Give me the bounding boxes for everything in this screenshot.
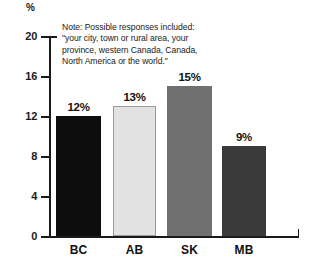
bars-layer: 12% 13% 15% 9%: [0, 0, 309, 274]
bar-sk[interactable]: [167, 86, 212, 236]
bar-value-bc: 12%: [67, 101, 89, 113]
x-category-label-mb: MB: [222, 243, 266, 257]
bar-group-mb: 9%: [222, 0, 266, 236]
bar-chart: % 20 16 12 8 4 0 Note: Possible response…: [0, 0, 309, 274]
bar-ab[interactable]: [113, 106, 156, 236]
bar-value-mb: 9%: [236, 131, 252, 143]
bar-bc[interactable]: [56, 116, 101, 236]
bar-group-ab: 13%: [113, 0, 156, 236]
bar-group-sk: 15%: [167, 0, 212, 236]
bar-group-bc: 12%: [56, 0, 101, 236]
bar-value-ab: 13%: [123, 91, 145, 103]
bar-value-sk: 15%: [178, 71, 200, 83]
bar-mb[interactable]: [222, 146, 266, 236]
x-category-label-ab: AB: [113, 243, 156, 257]
x-category-label-bc: BC: [56, 243, 101, 257]
x-category-label-sk: SK: [167, 243, 212, 257]
